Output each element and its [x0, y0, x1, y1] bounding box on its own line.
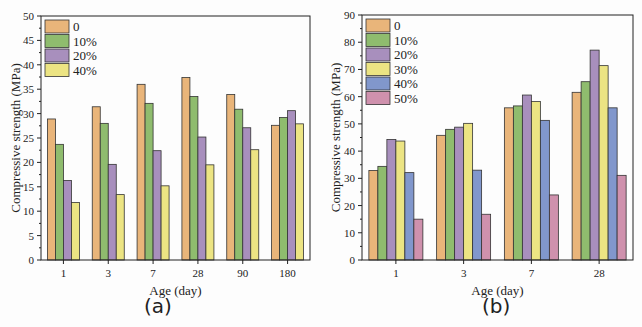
bar [145, 103, 153, 260]
y-tick-label: 80 [344, 36, 356, 48]
x-tick-label: 28 [594, 267, 606, 279]
y-axis-label: Compressive strength (MPa) [328, 63, 343, 212]
bar [482, 214, 491, 260]
x-tick-label: 90 [237, 267, 249, 279]
bar [92, 107, 100, 260]
bar [116, 195, 124, 260]
bar [47, 119, 55, 260]
legend-label: 40% [73, 63, 97, 78]
legend-label: 50% [394, 91, 418, 106]
bar [531, 102, 540, 260]
bar [296, 124, 304, 260]
bar [617, 175, 626, 260]
bar [581, 82, 590, 260]
y-tick-label: 5 [29, 230, 35, 242]
legend-label: 30% [394, 62, 418, 77]
caption-a: (a) [144, 294, 172, 318]
x-tick-label: 3 [106, 267, 112, 279]
bar [63, 180, 71, 260]
bar [243, 128, 251, 260]
legend-label: 20% [73, 48, 97, 63]
legend-swatch [366, 77, 390, 90]
y-tick-label: 0 [29, 254, 35, 266]
y-tick-label: 15 [23, 181, 35, 193]
bar [190, 97, 198, 260]
y-tick-label: 10 [344, 227, 356, 239]
y-tick-label: 45 [23, 34, 35, 46]
bar [161, 186, 169, 260]
bar [137, 84, 145, 260]
legend-swatch [366, 48, 390, 61]
bar [206, 165, 214, 260]
bar-chart-b: 137280102030405060708090Age (day)Compres… [321, 0, 642, 327]
x-tick-label: 28 [192, 267, 204, 279]
bar [414, 219, 423, 260]
bar [446, 129, 455, 260]
y-tick-label: 25 [23, 132, 35, 144]
legend-swatch [45, 64, 69, 77]
chart-panel-b: 137280102030405060708090Age (day)Compres… [321, 0, 642, 327]
x-tick-label: 7 [150, 267, 156, 279]
y-tick-label: 20 [23, 156, 35, 168]
legend-label: 10% [394, 33, 418, 48]
bar [251, 150, 259, 260]
y-tick-label: 50 [23, 10, 35, 22]
y-tick-label: 20 [344, 200, 356, 212]
bar [369, 170, 378, 260]
bar [227, 95, 235, 260]
y-tick-label: 90 [344, 9, 356, 21]
bar [235, 109, 243, 260]
x-tick-label: 1 [61, 267, 67, 279]
x-tick-label: 7 [529, 267, 535, 279]
bar [549, 195, 558, 260]
legend-swatch [366, 63, 390, 76]
y-tick-label: 30 [344, 172, 356, 184]
bar [280, 118, 288, 260]
bar [153, 151, 161, 260]
y-tick-label: 50 [344, 118, 356, 130]
y-tick-label: 10 [23, 205, 35, 217]
bar [473, 170, 482, 260]
bar [590, 50, 599, 260]
bar [272, 125, 280, 260]
caption-b: (b) [482, 294, 510, 318]
bar [55, 144, 63, 260]
legend-label: 10% [73, 34, 97, 49]
bar [513, 106, 522, 260]
bar [198, 137, 206, 260]
bar [405, 173, 414, 260]
bar [387, 139, 396, 260]
chart-panel-a: 137289018005101520253035404550Age (day)C… [0, 0, 321, 327]
y-tick-label: 0 [350, 254, 356, 266]
bar [71, 202, 79, 260]
legend-swatch [45, 35, 69, 48]
bar [522, 95, 531, 260]
bar [288, 111, 296, 260]
bar [437, 135, 446, 260]
y-tick-label: 40 [344, 145, 356, 157]
legend-swatch [45, 20, 69, 33]
bar [455, 127, 464, 260]
bar [378, 166, 387, 260]
bar [572, 92, 581, 260]
legend-swatch [45, 49, 69, 62]
bar-chart-a: 137289018005101520253035404550Age (day)C… [0, 0, 321, 327]
x-tick-label: 3 [461, 267, 467, 279]
legend-label: 0 [394, 18, 401, 33]
legend-swatch [366, 19, 390, 32]
y-axis-label: Compressive strength (MPa) [8, 63, 23, 212]
legend-label: 40% [394, 76, 418, 91]
x-tick-label: 180 [279, 267, 296, 279]
legend-swatch [366, 34, 390, 47]
bar [108, 164, 116, 260]
bar [464, 123, 473, 260]
y-tick-label: 35 [23, 83, 35, 95]
x-tick-label: 1 [393, 267, 399, 279]
legend-swatch [366, 92, 390, 105]
y-tick-label: 30 [23, 108, 35, 120]
bar [504, 108, 513, 260]
legend-label: 20% [394, 47, 418, 62]
y-tick-label: 40 [23, 59, 35, 71]
bar [599, 66, 608, 260]
bar [608, 108, 617, 260]
